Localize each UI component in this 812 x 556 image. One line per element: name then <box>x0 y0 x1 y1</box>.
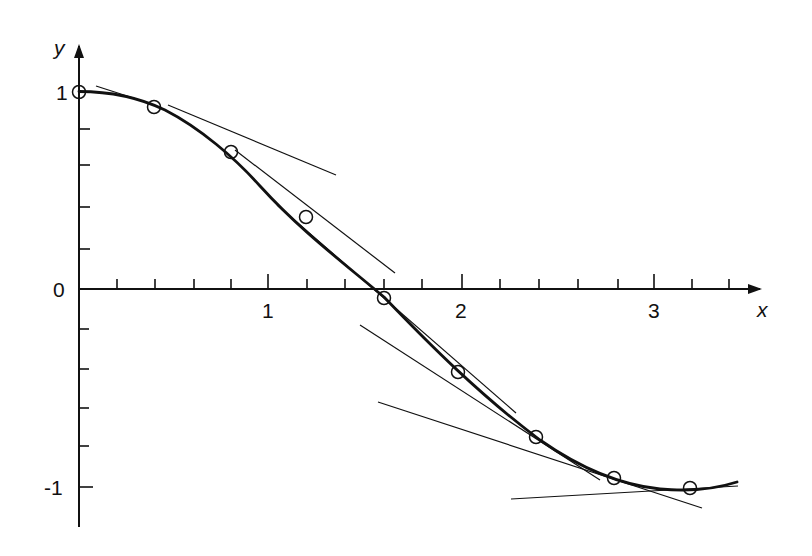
x-axis-ticks <box>117 274 729 289</box>
y-tick-label-neg1: -1 <box>44 476 63 499</box>
y-tick-label-1: 1 <box>56 81 68 104</box>
cosine-curve <box>79 92 737 491</box>
tangent-line <box>378 402 702 508</box>
cosine-diagram: y x 1 0 -1 1 2 3 <box>0 0 812 556</box>
y-tick-label-0: 0 <box>53 278 65 301</box>
x-tick-label-2: 2 <box>455 299 467 322</box>
tangent-lines <box>96 86 738 508</box>
y-axis-ticks <box>79 129 93 487</box>
x-tick-label-3: 3 <box>648 299 660 322</box>
y-axis-label: y <box>52 36 66 59</box>
x-axis-label: x <box>756 298 769 321</box>
tangent-line <box>168 105 336 175</box>
sample-point <box>300 211 313 224</box>
tangent-line <box>235 150 395 273</box>
x-tick-label-1: 1 <box>262 299 274 322</box>
